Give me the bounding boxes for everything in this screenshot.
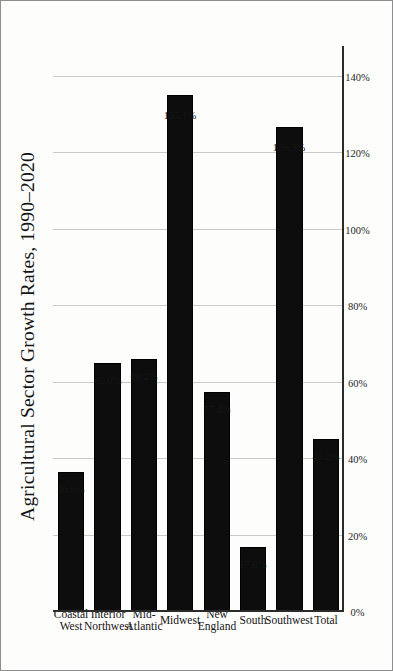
- plot-area: 36.6%65.0%66.2%135.1%57.4%17.0%126.9%45.…: [53, 46, 344, 612]
- tick-label-140pct: 140%: [345, 71, 370, 82]
- bar[interactable]: [313, 439, 339, 612]
- bar-value-label: 126.9%: [273, 141, 305, 152]
- bar[interactable]: [204, 392, 230, 612]
- bar[interactable]: [94, 363, 120, 612]
- gridline-140pct: [53, 76, 344, 77]
- bar-chart: Agricultural Sector Growth Rates, 1990–2…: [1, 1, 393, 671]
- tick-label-60pct: 60%: [348, 377, 367, 388]
- category-label-line: South: [240, 614, 267, 626]
- tick-label-20pct: 20%: [348, 530, 367, 541]
- category-label: Total: [314, 614, 337, 626]
- document-page: Agricultural Sector Growth Rates, 1990–2…: [0, 0, 393, 671]
- bar[interactable]: [131, 359, 157, 612]
- category-label-line: Total: [314, 614, 337, 626]
- value-axis-baseline: [342, 46, 344, 612]
- bar-value-label: 36.6%: [58, 484, 85, 495]
- gridline-0pct: [53, 610, 344, 612]
- tick-label-80pct: 80%: [348, 301, 367, 312]
- bar-value-label: 135.1%: [164, 110, 196, 121]
- tick-label-0pct: 0%: [351, 607, 365, 618]
- category-label-line: Midwest: [160, 614, 200, 626]
- bar-value-label: 66.2%: [130, 371, 157, 382]
- tick-label-100pct: 100%: [345, 224, 370, 235]
- category-label: Southwest: [265, 614, 313, 626]
- bar-value-label: 65.0%: [94, 375, 121, 386]
- category-label-line: Atlantic: [125, 620, 162, 632]
- bar[interactable]: [240, 547, 266, 612]
- rotated-chart-wrapper: Agricultural Sector Growth Rates, 1990–2…: [1, 1, 393, 671]
- bar-value-label: 45.2%: [312, 451, 339, 462]
- bar[interactable]: [167, 95, 193, 612]
- bar-value-label: 57.4%: [203, 405, 230, 416]
- category-label: Midwest: [160, 614, 200, 626]
- tick-label-40pct: 40%: [348, 454, 367, 465]
- category-label-line: England: [198, 620, 236, 632]
- category-label: South: [240, 614, 267, 626]
- tick-label-120pct: 120%: [345, 148, 370, 159]
- category-label-line: Northwest: [84, 620, 132, 632]
- bar[interactable]: [276, 127, 302, 612]
- category-label-line: Southwest: [265, 614, 313, 626]
- bar-value-label: 17.0%: [240, 559, 267, 570]
- category-label-line: West: [60, 620, 83, 632]
- chart-title: Agricultural Sector Growth Rates, 1990–2…: [1, 1, 39, 671]
